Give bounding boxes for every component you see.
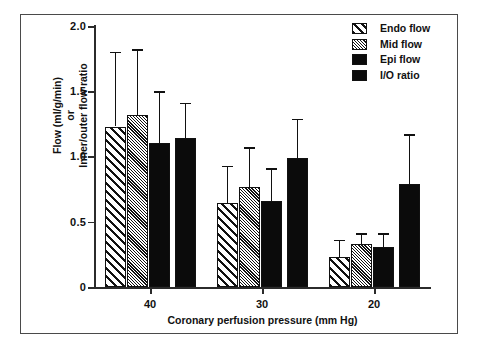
error-cap-i-o-ratio-30 [292,119,303,120]
y-tick-label-0: 0 [46,281,86,293]
bar-epi-flow-30 [261,201,282,287]
bar-endo-flow-20 [329,257,350,287]
chart-legend: Endo flow Mid flow Epi flow I/O ratio [352,22,452,84]
error-bar-i-o-ratio-40 [185,103,186,138]
legend-label-mid-flow: Mid flow [380,38,422,51]
error-bar-mid-flow-30 [249,147,250,186]
legend-label-io-ratio: I/O ratio [380,69,420,82]
error-bar-epi-flow-20 [383,233,384,246]
error-cap-i-o-ratio-40 [180,103,191,104]
y-axis-title-line-3: Inner/outer flow ratio [77,36,90,196]
bar-mid-flow-20 [351,244,372,287]
legend-swatch-io-ratio [352,70,367,81]
legend-swatch-endo-flow [352,23,367,34]
bar-endo-flow-40 [105,127,126,288]
error-bar-endo-flow-40 [115,52,116,126]
x-tick-label-30: 30 [239,298,285,310]
error-bar-mid-flow-20 [361,233,362,243]
legend-label-epi-flow: Epi flow [380,53,420,66]
error-cap-endo-flow-20 [334,240,345,241]
error-bar-endo-flow-20 [339,240,340,257]
error-cap-mid-flow-30 [244,147,255,148]
error-cap-i-o-ratio-20 [404,134,415,135]
y-axis-title: Flow (ml/g/min) or Inner/outer flow rati… [51,36,90,196]
x-tick-label-20: 20 [351,298,397,310]
bar-i-o-ratio-20 [399,184,420,287]
error-bar-epi-flow-40 [159,91,160,143]
bar-epi-flow-20 [373,247,394,287]
y-tick-label-2.0: 2.0 [46,20,86,32]
legend-swatch-mid-flow [352,39,367,50]
error-cap-endo-flow-30 [222,166,233,167]
error-cap-epi-flow-40 [154,91,165,92]
bar-i-o-ratio-30 [287,158,308,287]
y-tick-2.0 [88,26,95,28]
bar-endo-flow-30 [217,203,238,287]
error-bar-epi-flow-30 [271,168,272,201]
y-axis-title-line-1: Flow (ml/g/min) [51,36,64,196]
y-axis-title-line-2: or [64,36,77,196]
error-cap-epi-flow-30 [266,168,277,169]
y-tick-0.5 [88,222,95,224]
bar-mid-flow-40 [127,115,148,287]
error-bar-i-o-ratio-30 [297,119,298,158]
y-tick-0 [88,287,95,289]
error-cap-endo-flow-40 [110,52,121,53]
bar-epi-flow-40 [149,143,170,287]
figure-canvas: 2.0 1.5 1.0 0.5 0 Flow (ml/g/min) or Inn… [0,0,478,349]
legend-item-endo-flow: Endo flow [352,22,452,37]
x-tick-group-20 [374,288,376,294]
legend-item-io-ratio: I/O ratio [352,69,452,84]
error-cap-mid-flow-40 [132,49,143,50]
error-cap-epi-flow-20 [378,233,389,234]
error-bar-i-o-ratio-20 [409,134,410,184]
legend-swatch-epi-flow [352,54,367,65]
x-tick-label-40: 40 [127,298,173,310]
x-tick-group-40 [150,288,152,294]
legend-label-endo-flow: Endo flow [380,22,430,35]
bar-i-o-ratio-40 [175,138,196,287]
y-tick-label-0.5: 0.5 [46,216,86,228]
error-bar-mid-flow-40 [137,49,138,114]
x-axis-title: Coronary perfusion pressure (mm Hg) [95,314,430,326]
bar-mid-flow-30 [239,187,260,287]
error-cap-mid-flow-20 [356,233,367,234]
legend-item-epi-flow: Epi flow [352,53,452,68]
x-tick-group-30 [262,288,264,294]
legend-item-mid-flow: Mid flow [352,38,452,53]
error-bar-endo-flow-30 [227,166,228,204]
